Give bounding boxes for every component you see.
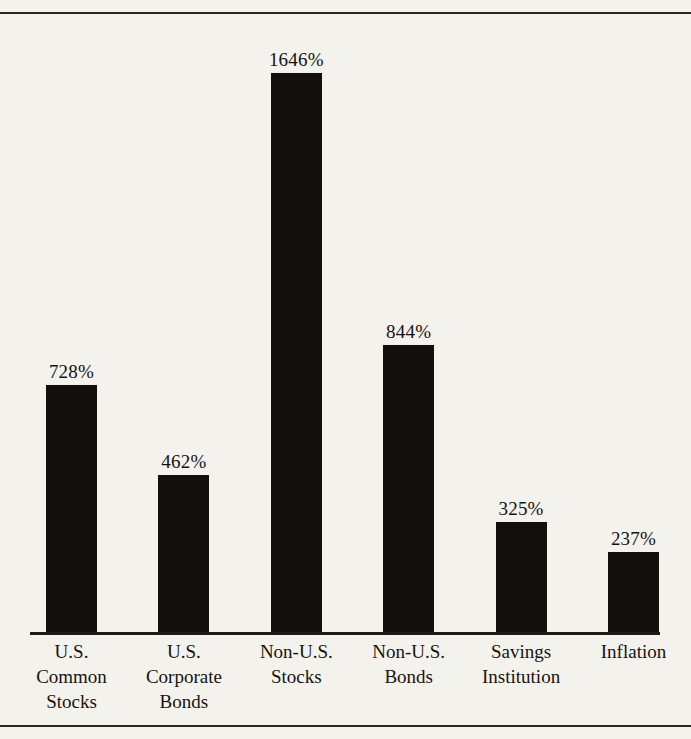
category-label-line: Stocks bbox=[14, 689, 129, 714]
category-label-0: U.S.CommonStocks bbox=[14, 639, 129, 714]
category-label-2: Non-U.S.Stocks bbox=[239, 639, 354, 689]
category-label-line: Stocks bbox=[239, 664, 354, 689]
bar-3 bbox=[383, 345, 434, 632]
bar-0 bbox=[46, 385, 97, 632]
category-label-line: U.S. bbox=[14, 639, 129, 664]
bar-chart-plot-area: 728%462%1646%844%325%237% U.S.CommonStoc… bbox=[0, 0, 691, 739]
category-label-3: Non-U.S.Bonds bbox=[351, 639, 466, 689]
bar-value-label-0: 728% bbox=[16, 361, 127, 382]
bar-4 bbox=[496, 522, 547, 632]
bar-2 bbox=[271, 73, 322, 632]
category-label-line: Common bbox=[14, 664, 129, 689]
category-label-line: Institution bbox=[464, 664, 579, 689]
category-label-line: Savings bbox=[464, 639, 579, 664]
bar-value-label-3: 844% bbox=[353, 321, 464, 342]
category-label-4: SavingsInstitution bbox=[464, 639, 579, 689]
category-label-line: Corporate bbox=[126, 664, 241, 689]
bar-value-label-5: 237% bbox=[578, 528, 689, 549]
category-label-line: Non-U.S. bbox=[351, 639, 466, 664]
bar-value-label-2: 1646% bbox=[241, 49, 352, 70]
category-label-1: U.S.CorporateBonds bbox=[126, 639, 241, 714]
bar-5 bbox=[608, 552, 659, 632]
figure-container: 728%462%1646%844%325%237% U.S.CommonStoc… bbox=[0, 0, 691, 739]
category-label-5: Inflation bbox=[576, 639, 691, 664]
x-axis-baseline bbox=[30, 632, 660, 635]
bar-value-label-1: 462% bbox=[128, 451, 239, 472]
bar-1 bbox=[158, 475, 209, 632]
category-label-line: Non-U.S. bbox=[239, 639, 354, 664]
category-label-line: U.S. bbox=[126, 639, 241, 664]
category-label-line: Bonds bbox=[126, 689, 241, 714]
bar-value-label-4: 325% bbox=[466, 498, 577, 519]
category-label-line: Inflation bbox=[576, 639, 691, 664]
category-label-line: Bonds bbox=[351, 664, 466, 689]
bottom-horizontal-rule bbox=[0, 725, 691, 727]
